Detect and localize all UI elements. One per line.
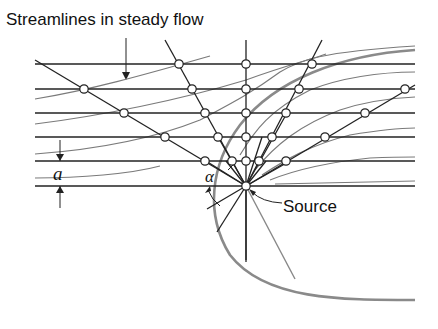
streamlines (35, 46, 415, 184)
source-label: Source (283, 197, 337, 216)
streamline-diagram: Streamlines in steady flow (0, 0, 438, 329)
nodes (80, 60, 409, 190)
source-pointer (252, 192, 282, 203)
angle-arrowhead-icon (205, 186, 211, 193)
angle-label: α (205, 167, 215, 186)
horizontal-lines (35, 64, 415, 186)
spacing-arrowhead-top-icon (56, 154, 64, 161)
spacing-arrowhead-bottom-icon (56, 186, 64, 193)
diagram-title: Streamlines in steady flow (6, 10, 204, 29)
spacing-label: a (53, 163, 63, 184)
